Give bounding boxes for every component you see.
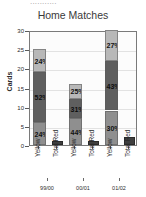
season-label: 99/00 xyxy=(40,185,54,191)
bar-segment-label: 44% xyxy=(71,128,82,135)
bar-segment-label: 31% xyxy=(71,105,82,112)
stacked-bar-yellow[interactable]: 24%52%24% xyxy=(33,49,46,145)
gridline xyxy=(30,128,136,129)
y-tick-label: 20 xyxy=(0,66,24,72)
bar-segment[interactable]: 52% xyxy=(33,72,46,122)
season-tick-mark xyxy=(83,178,84,181)
stacked-bar-yellow[interactable]: 25%31%44% xyxy=(69,84,82,145)
y-tick-label: 0 xyxy=(0,143,24,149)
season-tick-mark xyxy=(119,178,120,181)
y-tick-label: 30 xyxy=(0,28,24,34)
bar-segment[interactable]: 31% xyxy=(69,99,82,118)
y-axis-ticks: 051015202530 xyxy=(0,31,27,146)
x-category-label: Yellow xyxy=(106,138,113,157)
x-category-label: Total Red xyxy=(124,130,131,157)
chart-figure: ........... Home Matches Cards 051015202… xyxy=(0,0,146,197)
y-tick-label: 10 xyxy=(0,105,24,111)
season-label: 01/02 xyxy=(112,185,126,191)
gridline xyxy=(30,90,136,91)
bar-segment-label: 24% xyxy=(35,130,46,137)
x-category-label: Total Red xyxy=(52,130,59,157)
bar-segment[interactable]: 24% xyxy=(33,49,46,72)
y-tick-label: 15 xyxy=(0,86,24,92)
bar-segment-label: 52% xyxy=(35,94,46,101)
y-tick-mark xyxy=(25,146,29,147)
bar-segment[interactable]: 27% xyxy=(105,30,118,61)
gridline xyxy=(30,51,136,52)
x-category-label: Total Red xyxy=(88,130,95,157)
bar-segment-label: 43% xyxy=(107,82,118,89)
gridline xyxy=(30,70,136,71)
chart-title: Home Matches xyxy=(0,9,146,21)
gridline xyxy=(30,109,136,110)
bar-segment[interactable]: 25% xyxy=(69,84,82,99)
bar-segment-label: 24% xyxy=(35,57,46,64)
stacked-bar-yellow[interactable]: 27%43%30% xyxy=(105,30,118,145)
bar-segment-label: 30% xyxy=(107,124,118,131)
y-tick-label: 5 xyxy=(0,124,24,130)
y-tick-label: 25 xyxy=(0,47,24,53)
bar-segment-label: 27% xyxy=(107,42,118,49)
x-category-label: Yellow xyxy=(34,138,41,157)
bar-segment-label: 25% xyxy=(71,88,82,95)
season-label: 00/01 xyxy=(76,185,90,191)
cutoff-header-text: ........... xyxy=(30,0,120,4)
x-category-label: Yellow xyxy=(70,138,77,157)
bar-segment[interactable]: 43% xyxy=(105,61,118,111)
plot-area: 24%52%24%25%31%44%27%43%30% xyxy=(29,31,137,146)
season-tick-mark xyxy=(47,178,48,181)
